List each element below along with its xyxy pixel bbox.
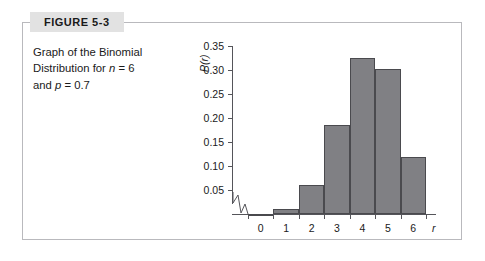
bar xyxy=(273,209,298,214)
x-axis-tick-label: 0 xyxy=(258,222,264,234)
bar xyxy=(375,69,400,214)
caption-line-3-post: = 0.7 xyxy=(61,79,90,91)
y-axis-tick-label: 0.15 xyxy=(188,136,224,148)
y-axis-tick xyxy=(228,190,232,191)
y-axis-tick-label: 0.30 xyxy=(188,64,224,76)
x-axis-label: r xyxy=(432,222,436,234)
x-axis-tick xyxy=(299,215,300,219)
bar xyxy=(299,185,324,214)
x-axis-tick-label: 1 xyxy=(283,222,289,234)
figure-label: FIGURE 5-3 xyxy=(30,12,124,32)
x-axis-tick xyxy=(401,215,402,219)
caption-line-1: Graph of the Binomial xyxy=(33,46,142,58)
x-axis-tick xyxy=(324,215,325,219)
caption-line-2-post: = 6 xyxy=(115,62,134,74)
bar xyxy=(401,157,426,214)
binomial-distribution-chart: P(r) r 0.050.100.150.200.250.300.3501234… xyxy=(188,38,463,248)
x-axis-tick xyxy=(273,215,274,219)
y-axis-tick-label: 0.05 xyxy=(188,184,224,196)
caption-line-3-pre: and xyxy=(33,79,55,91)
y-axis-tick xyxy=(228,142,232,143)
x-axis-tick-label: 5 xyxy=(385,222,391,234)
x-axis-tick xyxy=(426,215,427,219)
x-axis-tick-label: 3 xyxy=(334,222,340,234)
x-axis-tick-label: 6 xyxy=(410,222,416,234)
y-axis-tick-label: 0.10 xyxy=(188,160,224,172)
x-axis-tick xyxy=(350,215,351,219)
y-axis-tick xyxy=(228,46,232,47)
y-axis-tick-label: 0.20 xyxy=(188,112,224,124)
y-axis-tick-label: 0.35 xyxy=(188,40,224,52)
x-axis-tick-label: 4 xyxy=(360,222,366,234)
y-axis-tick xyxy=(228,94,232,95)
y-axis-tick-label: 0.25 xyxy=(188,88,224,100)
bar xyxy=(324,125,349,214)
axis-break-icon xyxy=(230,192,252,218)
y-axis-tick xyxy=(228,118,232,119)
y-axis-tick xyxy=(228,166,232,167)
caption-line-2-pre: Distribution for xyxy=(33,62,109,74)
y-axis-tick xyxy=(228,70,232,71)
figure-caption: Graph of the Binomial Distribution for n… xyxy=(33,44,173,93)
x-axis-tick xyxy=(375,215,376,219)
x-axis-tick-label: 2 xyxy=(309,222,315,234)
bar xyxy=(350,58,375,214)
y-axis-line xyxy=(232,46,233,204)
